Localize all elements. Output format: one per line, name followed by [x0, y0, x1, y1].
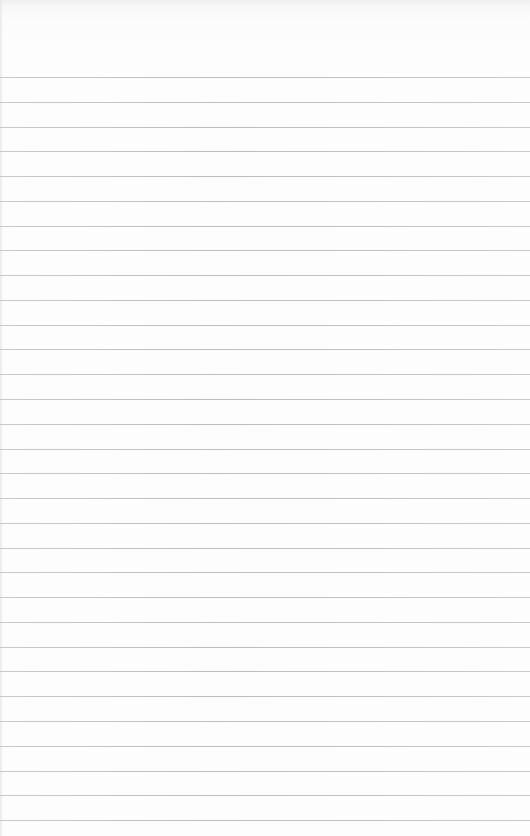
- lined-paper: [0, 0, 530, 836]
- ruled-line: [0, 176, 530, 177]
- ruled-line: [0, 597, 530, 598]
- ruled-line: [0, 671, 530, 672]
- ruled-line: [0, 473, 530, 474]
- ruled-line: [0, 424, 530, 425]
- ruled-line: [0, 449, 530, 450]
- ruled-line: [0, 151, 530, 152]
- ruled-line: [0, 127, 530, 128]
- ruled-line: [0, 374, 530, 375]
- paper-edge-shadow: [0, 0, 3, 836]
- ruled-line: [0, 572, 530, 573]
- ruled-line: [0, 250, 530, 251]
- ruled-line: [0, 275, 530, 276]
- ruled-line: [0, 721, 530, 722]
- ruled-line: [0, 201, 530, 202]
- ruled-line: [0, 746, 530, 747]
- ruled-line: [0, 77, 530, 78]
- ruled-line: [0, 523, 530, 524]
- ruled-line: [0, 771, 530, 772]
- ruled-line: [0, 399, 530, 400]
- ruled-line: [0, 102, 530, 103]
- ruled-line: [0, 300, 530, 301]
- ruled-line: [0, 622, 530, 623]
- ruled-line: [0, 820, 530, 821]
- ruled-line: [0, 498, 530, 499]
- ruled-line: [0, 325, 530, 326]
- ruled-line: [0, 226, 530, 227]
- ruled-line: [0, 696, 530, 697]
- ruled-line: [0, 349, 530, 350]
- ruled-line: [0, 647, 530, 648]
- ruled-line: [0, 795, 530, 796]
- ruled-line: [0, 548, 530, 549]
